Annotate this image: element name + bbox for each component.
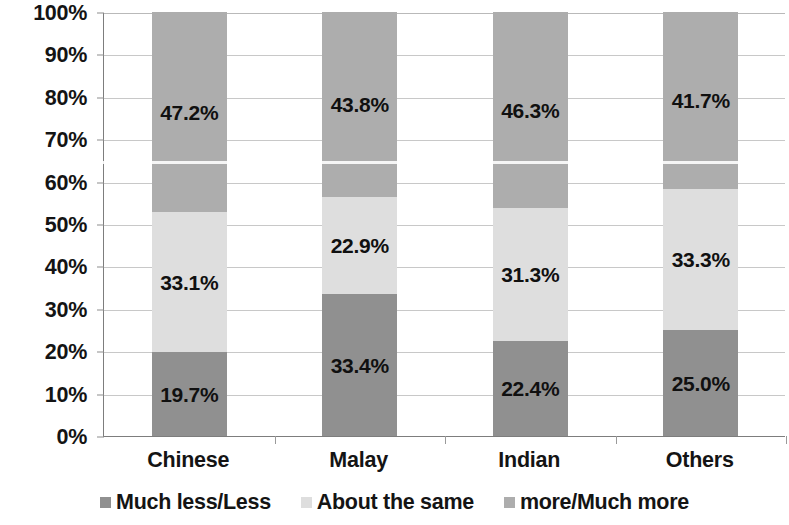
bar-segment[interactable]: 47.2% [152,12,227,212]
legend-item[interactable]: Much less/Less [100,492,271,514]
bar-stack: 46.3%31.3%22.4% [493,12,568,436]
bar-segment-value-label: 33.4% [331,355,389,376]
bar-segment[interactable]: 31.3% [493,208,568,341]
bar-segment-value-label: 31.3% [501,264,559,285]
bar-segment[interactable]: 33.1% [152,212,227,352]
bar-segment-value-label: 22.9% [331,235,389,256]
bar-group: 41.7%33.3%25.0% [663,13,738,436]
bar-stack: 43.8%22.9%33.4% [322,12,397,436]
y-axis-tick-mark [97,55,104,56]
y-axis-tick-mark [97,267,104,268]
y-axis-tick-label: 60% [0,170,87,195]
bar-segment[interactable]: 22.9% [322,197,397,294]
bar-segment[interactable]: 46.3% [493,12,568,208]
bar-segment[interactable]: 19.7% [152,352,227,436]
y-axis-tick-label: 0% [0,425,87,450]
x-axis-category-label: Chinese [103,448,274,473]
x-axis-category-label: Indian [444,448,615,473]
bar-segment-value-label: 33.1% [160,272,218,293]
legend-label: more/Much more [520,492,689,514]
chart-legend: Much less/LessAbout the samemore/Much mo… [0,492,789,514]
y-axis-tick-label: 10% [0,382,87,407]
bar-segment-value-label: 19.7% [160,384,218,405]
plot-area: 47.2%33.1%19.7%43.8%22.9%33.4%46.3%31.3%… [103,13,785,437]
y-axis-tick-label: 30% [0,297,87,322]
bar-segment-value-label: 46.3% [501,100,559,121]
y-axis-tick-label: 100% [0,1,87,26]
bar-segment[interactable]: 22.4% [493,341,568,436]
y-axis-tick-label: 90% [0,43,87,68]
y-axis-tick-label: 80% [0,85,87,110]
y-axis-tick-mark [97,182,104,183]
x-axis-category-label: Others [615,448,786,473]
bar-segment-value-label: 41.7% [672,90,730,111]
y-axis-tick-mark [97,13,104,14]
bar-segment-value-label: 43.8% [331,94,389,115]
bar-segment[interactable]: 43.8% [322,12,397,198]
x-axis-tick-mark [445,436,446,444]
bar-group: 46.3%31.3%22.4% [493,13,568,436]
bar-stack: 47.2%33.1%19.7% [152,12,227,436]
bar-group: 43.8%22.9%33.4% [322,13,397,436]
bar-segment-value-label: 47.2% [160,102,218,123]
legend-item[interactable]: more/Much more [504,492,689,514]
bar-segment[interactable]: 41.7% [663,12,738,189]
bar-group: 47.2%33.1%19.7% [152,13,227,436]
bar-segment[interactable]: 25.0% [663,330,738,436]
stacked-bar-chart: 0%10%20%30%40%50%60%70%80%90%100% 47.2%3… [0,0,789,525]
y-axis-tick-label: 40% [0,255,87,280]
y-axis-tick-mark [97,309,104,310]
bar-segment[interactable]: 33.3% [663,189,738,330]
y-axis-tick-label: 70% [0,128,87,153]
y-axis-tick-label: 20% [0,340,87,365]
legend-label: About the same [317,492,474,514]
y-axis-tick-mark [97,140,104,141]
bar-segment-value-label: 25.0% [672,373,730,394]
y-axis-tick-mark [97,394,104,395]
legend-item[interactable]: About the same [301,492,474,514]
legend-swatch-icon [100,497,111,508]
y-axis-tick-mark [97,225,104,226]
bar-segment[interactable]: 33.4% [322,294,397,436]
bar-stack: 41.7%33.3%25.0% [663,12,738,436]
bar-segment-value-label: 33.3% [672,249,730,270]
x-axis-tick-mark [616,436,617,444]
y-axis-tick-mark [97,97,104,98]
y-axis-tick-mark [97,352,104,353]
x-axis-tick-mark [786,436,787,444]
y-axis-tick-mark [97,437,104,438]
x-axis-category-label: Malay [274,448,445,473]
legend-swatch-icon [301,497,312,508]
legend-label: Much less/Less [116,492,271,514]
y-axis-tick-label: 50% [0,213,87,238]
x-axis-tick-mark [275,436,276,444]
bar-segment-value-label: 22.4% [501,378,559,399]
legend-swatch-icon [504,497,515,508]
